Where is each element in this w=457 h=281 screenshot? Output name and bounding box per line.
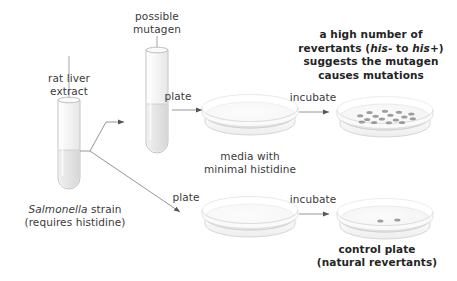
- control-plate-caption-line-1: control plate: [338, 243, 415, 255]
- colony: [359, 120, 365, 123]
- conclusion-text: a high number ofrevertants (his- to his+…: [288, 28, 454, 82]
- control-plate-after-incubation: [337, 199, 433, 239]
- label-possible-mutagen: possible mutagen: [102, 10, 212, 35]
- label-incubate-top: incubate: [283, 91, 343, 104]
- colony: [393, 118, 399, 121]
- colony: [379, 118, 385, 121]
- colony: [410, 117, 416, 120]
- colony: [371, 121, 377, 124]
- conclusion-line-2-mid: - to: [388, 42, 412, 54]
- his-plus-italic: his: [412, 42, 430, 54]
- colony: [399, 121, 405, 124]
- colony: [364, 118, 370, 121]
- colony: [396, 111, 402, 114]
- colony: [386, 121, 392, 124]
- label-salmonella-strain: Salmonella strain(requires histidine): [0, 203, 150, 228]
- colony: [377, 220, 383, 223]
- conclusion-line-1: a high number of: [319, 28, 422, 40]
- colony: [394, 219, 400, 222]
- colony: [401, 116, 407, 119]
- control-plate-caption: control plate(natural revertants): [297, 243, 457, 269]
- label-media-minimal-histidine: media with minimal histidine: [185, 150, 315, 175]
- his-minus-italic: his: [370, 42, 388, 54]
- colony: [373, 115, 379, 118]
- salmonella-strain-suffix: strain: [88, 203, 122, 215]
- top-plate-after-incubation: [337, 97, 433, 137]
- colony: [382, 110, 388, 113]
- colony: [366, 111, 372, 114]
- colony: [408, 113, 414, 116]
- control-plate-caption-line-2: (natural revertants): [317, 256, 437, 268]
- label-plate-bottom: plate: [164, 191, 208, 204]
- ames-test-diagram: rat liver extract possible mutagen Salmo…: [0, 0, 457, 281]
- conclusion-line-2-suffix: +): [430, 42, 444, 54]
- conclusion-line-3: suggests the mutagen: [304, 55, 439, 67]
- salmonella-requires-histidine: (requires histidine): [24, 216, 125, 228]
- label-incubate-bottom: incubate: [283, 193, 343, 206]
- colony: [387, 114, 393, 117]
- colony: [357, 114, 363, 117]
- label-rat-liver-extract: rat liver extract: [14, 72, 124, 97]
- conclusion-line-2-prefix: revertants (: [298, 42, 370, 54]
- label-plate-top: plate: [156, 90, 200, 103]
- salmonella-genus: Salmonella: [28, 203, 87, 215]
- conclusion-line-4: causes mutations: [318, 69, 424, 81]
